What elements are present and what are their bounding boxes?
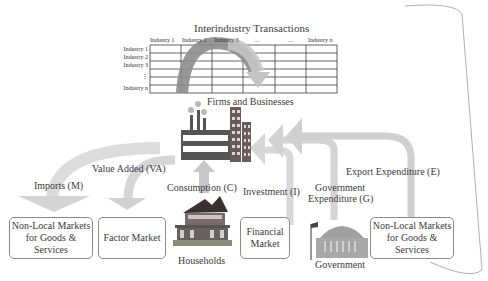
government-label: Government — [315, 259, 365, 270]
households-label: Households — [178, 255, 225, 266]
row-label: Industry 3 — [110, 62, 148, 68]
house-icon — [173, 196, 232, 246]
export-label: Export Expenditure (E) — [346, 166, 440, 177]
government-expenditure-label-2: Expenditure (G) — [308, 193, 373, 204]
row-label: Industry 1 — [110, 46, 148, 52]
diagram-title: Interindustry Transactions — [194, 22, 309, 34]
nonlocal-markets-left-box: Non-Local Markets for Goods & Services — [9, 217, 93, 259]
column-header: Industry 3 — [214, 37, 239, 43]
column-header: Industry n — [308, 37, 333, 43]
export-arrow — [300, 136, 411, 225]
office-buildings-icon — [230, 107, 251, 162]
government-building-icon — [311, 222, 368, 260]
government-expenditure-label-1: Government — [315, 182, 365, 193]
consumption-label: Consumption (C) — [167, 182, 237, 193]
factor-market-box: Factor Market — [98, 217, 166, 259]
row-label: ⋮ — [110, 72, 148, 79]
imports-arrow — [52, 148, 160, 200]
row-label: Industry 2 — [110, 54, 148, 60]
column-header: … — [254, 37, 260, 43]
value-added-label: Value Added (VA) — [92, 163, 166, 174]
financial-market-box: Financial Market — [240, 217, 290, 259]
column-header: Industry 1 — [150, 37, 175, 43]
nonlocal-markets-right-box: Non-Local Markets for Goods & Services — [370, 217, 454, 259]
imports-label: Imports (M) — [34, 180, 83, 191]
factory-icon — [181, 101, 230, 160]
column-header: Industry 2 — [182, 37, 207, 43]
investment-label: Investment (I) — [243, 186, 300, 197]
cycle-arrowhead — [246, 72, 270, 88]
firms-label: Firms and Businesses — [207, 96, 294, 107]
column-header: … — [288, 37, 294, 43]
row-label: Industry n — [110, 85, 148, 91]
